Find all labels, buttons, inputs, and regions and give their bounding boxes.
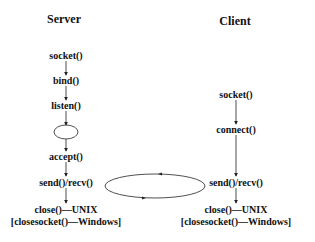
client-socket-step: socket() — [219, 89, 252, 100]
server-socket-step: socket() — [49, 50, 82, 61]
server-bind-step: bind() — [53, 75, 79, 86]
server-close-step: close()—UNIX — [35, 204, 98, 215]
client-sendrecv-step: send()/recv() — [209, 177, 263, 188]
server-closesocket-step: [closesocket()—Windows] — [11, 216, 121, 227]
client-closesocket-step: [closesocket()—Windows] — [181, 216, 291, 227]
server-accept-step: accept() — [49, 151, 83, 162]
server-sendrecv-step: send()/recv() — [39, 177, 93, 188]
data-exchange-loop — [105, 174, 205, 198]
client-connect-step: connect() — [216, 124, 255, 135]
exchange-arrow-bottom — [142, 197, 146, 200]
exchange-arrow-top — [158, 173, 162, 176]
accept-wait-loop — [54, 125, 78, 139]
socket-flow-diagram: Server socket() bind() listen() accept()… — [0, 0, 315, 242]
client-close-step: close()—UNIX — [205, 204, 268, 215]
client-title: Client — [219, 15, 250, 28]
server-listen-step: listen() — [51, 100, 80, 111]
server-title: Server — [47, 13, 81, 26]
